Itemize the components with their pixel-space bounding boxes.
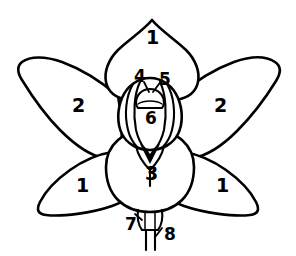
label-sepal-lower-right: 1 bbox=[216, 176, 229, 195]
label-bract: 7 bbox=[125, 216, 137, 233]
label-sepal-lower-left: 1 bbox=[76, 176, 89, 195]
label-petal-right: 2 bbox=[214, 96, 227, 115]
label-anther: 4 bbox=[134, 68, 146, 85]
orchid-diagram-figure: 1 2 2 4 5 6 3 1 1 7 8 bbox=[0, 0, 296, 256]
label-petal-left: 2 bbox=[72, 96, 85, 115]
label-stigma: 5 bbox=[159, 71, 171, 88]
label-pedicel-ovary: 8 bbox=[164, 226, 176, 243]
label-column: 6 bbox=[145, 110, 157, 127]
label-sepal-dorsal: 1 bbox=[146, 28, 159, 47]
label-labellum: 3 bbox=[145, 164, 158, 183]
